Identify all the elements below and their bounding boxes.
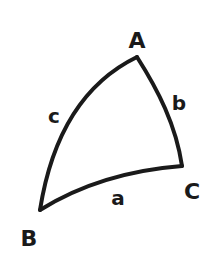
side-label-c: c (48, 104, 60, 128)
side-label-b: b (172, 91, 186, 115)
side-label-a: a (111, 186, 125, 210)
vertex-label-a: A (128, 28, 145, 53)
vertex-label-b: B (21, 226, 38, 251)
spherical-triangle-diagram: A B C a b c (0, 0, 217, 262)
vertex-label-c: C (184, 179, 200, 204)
diagram-canvas: A B C a b c (0, 0, 217, 262)
